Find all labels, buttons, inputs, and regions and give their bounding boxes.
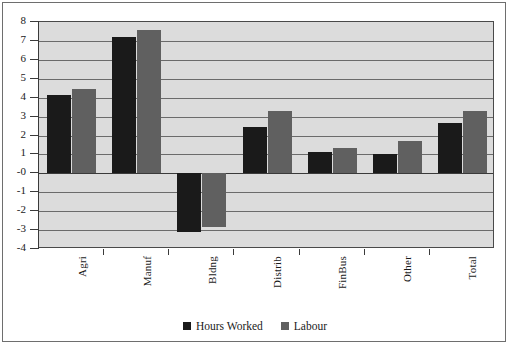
y-axis-tick-label: -3 — [0, 223, 26, 234]
legend-label: Labour — [294, 320, 327, 332]
x-tick-separator — [103, 249, 104, 255]
gridline-5 — [39, 79, 493, 80]
bar-total-labour — [463, 111, 487, 173]
legend-swatch-icon — [281, 322, 289, 330]
legend-entry-hours-worked[interactable]: Hours Worked — [183, 320, 263, 332]
bar-bldng-hours-worked — [177, 173, 201, 232]
bar-distrib-labour — [268, 111, 292, 173]
y-axis-tick-label: -1 — [0, 185, 26, 196]
y-axis-tick-label: 4 — [0, 91, 26, 102]
bar-total-hours-worked — [438, 123, 462, 173]
y-tick--3 — [30, 229, 38, 230]
gridline-6 — [39, 60, 493, 61]
y-axis-tick-label: 8 — [0, 15, 26, 26]
gridline--3 — [39, 230, 493, 231]
gridline--1 — [39, 192, 493, 193]
y-axis-tick-label: 7 — [0, 34, 26, 45]
x-axis-label-distrib: Distrib — [271, 256, 283, 288]
bar-agri-labour — [72, 89, 96, 173]
x-axis-label-other: Other — [401, 256, 413, 282]
legend-swatch-icon — [183, 322, 191, 330]
gridline-7 — [39, 41, 493, 42]
bar-finbus-labour — [333, 148, 357, 174]
bar-manuf-labour — [137, 30, 161, 174]
x-tick-separator — [299, 249, 300, 255]
y-axis-tick-label: 1 — [0, 147, 26, 158]
y-axis-tick-label: -4 — [0, 242, 26, 253]
y-tick--4 — [30, 248, 38, 249]
x-axis-label-total: Total — [466, 256, 478, 279]
x-axis-label-manuf: Manuf — [141, 256, 153, 286]
y-tick--1 — [30, 191, 38, 192]
gridline--2 — [39, 211, 493, 212]
x-axis-label-agri: Agri — [76, 256, 88, 277]
y-tick-3 — [30, 116, 38, 117]
y-tick-6 — [30, 59, 38, 60]
y-tick-7 — [30, 40, 38, 41]
y-tick-2 — [30, 135, 38, 136]
x-tick-separator — [429, 249, 430, 255]
bar-distrib-hours-worked — [243, 127, 267, 173]
plot-area — [38, 21, 494, 248]
legend-entry-labour[interactable]: Labour — [281, 320, 327, 332]
gridline-4 — [39, 98, 493, 99]
y-tick-0 — [30, 172, 38, 173]
bar-manuf-hours-worked — [112, 37, 136, 173]
y-axis-tick-label: 3 — [0, 110, 26, 121]
y-axis-line — [38, 21, 39, 249]
legend-label: Hours Worked — [196, 320, 263, 332]
y-tick-1 — [30, 153, 38, 154]
y-tick--2 — [30, 210, 38, 211]
y-tick-4 — [30, 97, 38, 98]
bar-agri-hours-worked — [47, 95, 71, 174]
y-axis-tick-label: -0 — [0, 166, 26, 177]
y-axis-tick-label: -2 — [0, 204, 26, 215]
x-tick-separator — [364, 249, 365, 255]
gridline-0 — [39, 173, 493, 174]
bar-other-hours-worked — [373, 154, 397, 173]
bar-other-labour — [398, 141, 422, 173]
bar-bldng-labour — [202, 173, 226, 227]
x-axis-label-finbus: FinBus — [336, 256, 348, 289]
y-axis-tick-label: 5 — [0, 72, 26, 83]
y-axis-tick-label: 6 — [0, 53, 26, 64]
x-axis-label-bldng: Bldng — [206, 256, 218, 284]
chart-legend: Hours WorkedLabour — [0, 320, 510, 332]
x-tick-separator — [233, 249, 234, 255]
y-tick-8 — [30, 21, 38, 22]
gridline-3 — [39, 117, 493, 118]
bar-finbus-hours-worked — [308, 152, 332, 174]
x-tick-separator — [168, 249, 169, 255]
y-tick-5 — [30, 78, 38, 79]
y-axis-tick-label: 2 — [0, 129, 26, 140]
chart-figure: 87654321-0-1-2-3-4 AgriManufBldngDistrib… — [0, 0, 510, 345]
